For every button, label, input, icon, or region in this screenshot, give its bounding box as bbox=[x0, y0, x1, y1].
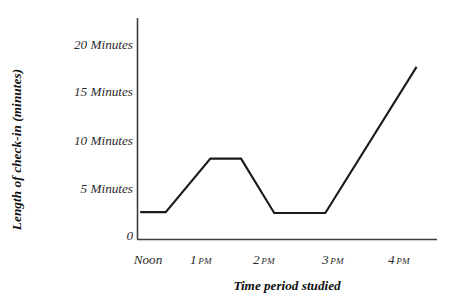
data-series-line bbox=[140, 67, 416, 213]
chart-figure: Length of check-in (minutes) 20 Minutes … bbox=[0, 0, 464, 299]
plot-area bbox=[0, 0, 464, 299]
